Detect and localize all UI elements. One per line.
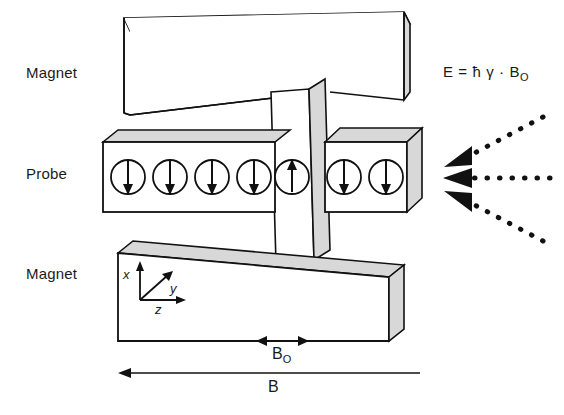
rf-arrow-middle-head	[443, 168, 472, 188]
spin-down-arrow	[111, 160, 145, 195]
axis-label-y: y	[170, 281, 177, 296]
energy-formula-subscript: O	[520, 71, 529, 83]
probe-right-top-face	[325, 128, 422, 142]
rf-arrow-upper	[444, 117, 543, 167]
energy-formula: E = ħ γ · BO	[443, 63, 529, 83]
top-magnet-right-bottom-edge	[330, 92, 404, 100]
axis-label-z: z	[155, 302, 162, 317]
label-magnet-bottom: Magnet	[26, 265, 77, 282]
bottom-magnet-block	[118, 241, 404, 341]
label-probe: Probe	[26, 165, 67, 182]
b0-field-label: BO	[272, 345, 291, 365]
rf-arrow-upper-dots	[467, 117, 543, 157]
label-magnet-top: Magnet	[26, 64, 77, 81]
spin-group-center	[275, 159, 309, 194]
probe-right-side-face	[407, 128, 422, 212]
axis-label-x: x	[123, 267, 130, 282]
spin-down-arrow	[327, 160, 361, 195]
rf-arrow-upper-head	[444, 146, 472, 167]
spin-down-arrow	[195, 160, 229, 195]
b0-field-label-subscript: O	[283, 353, 292, 365]
rf-arrow-lower-head	[444, 191, 472, 212]
top-magnet-right-face	[404, 12, 410, 100]
b0-field-label-text: B	[272, 345, 283, 362]
rf-arrow-lower	[444, 191, 543, 241]
b-field-arrow	[118, 368, 420, 378]
rf-arrow-middle	[443, 168, 550, 188]
top-magnet-bottom-left-edge	[124, 113, 130, 115]
top-magnet-block	[124, 12, 410, 115]
b-field-label: B	[268, 378, 279, 396]
rf-arrow-lower-dots	[467, 201, 543, 241]
bottom-magnet-right-face	[389, 265, 404, 341]
spin-up-arrow	[275, 159, 309, 194]
nmr-diagram-canvas: Magnet Probe Magnet E = ħ γ · BO x y z B…	[0, 0, 564, 415]
energy-formula-text: E = ħ γ · B	[443, 63, 520, 80]
probe-left-top-face	[103, 130, 290, 142]
spin-down-arrow	[153, 160, 187, 195]
spin-down-arrow	[369, 160, 403, 195]
spin-down-arrow	[237, 160, 271, 195]
b-arrow-head	[118, 368, 131, 378]
